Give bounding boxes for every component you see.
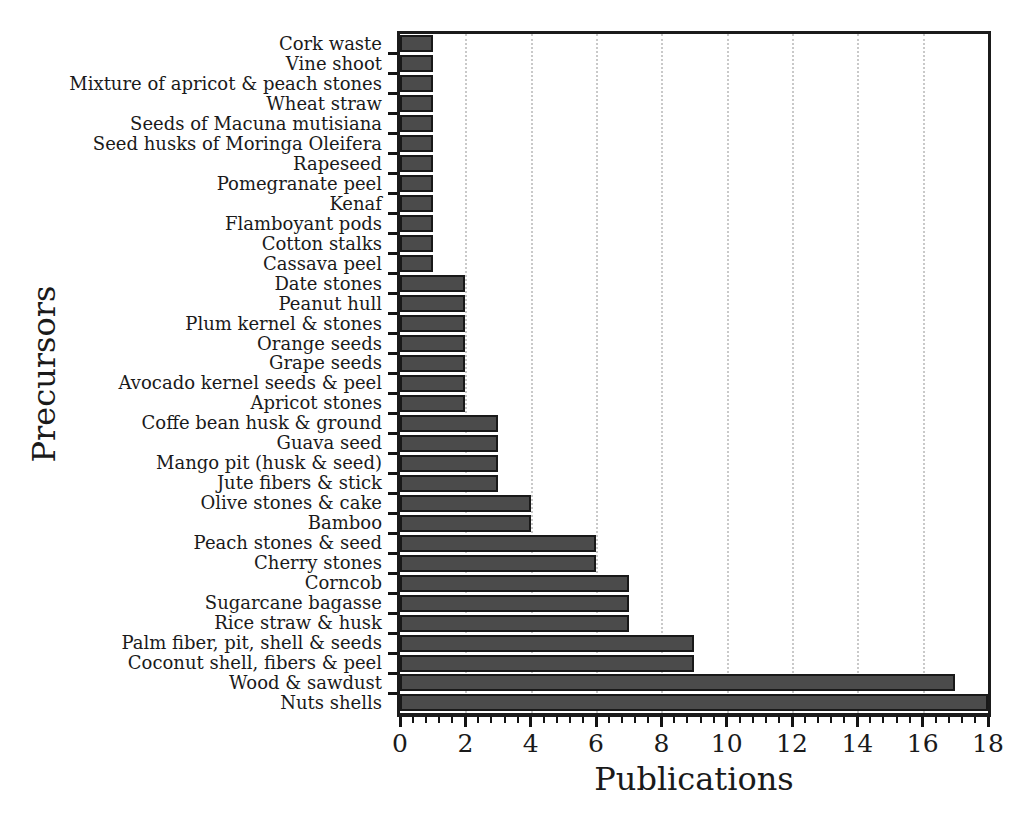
category-label: Vine shoot: [0, 54, 389, 74]
bar: [400, 215, 433, 232]
bar: [400, 335, 465, 352]
y-tick: [388, 352, 397, 355]
x-major-tick: [856, 717, 859, 727]
x-axis-title: Publications: [594, 760, 793, 798]
y-tick: [388, 212, 397, 215]
category-label: Flamboyant pods: [0, 214, 389, 234]
bar-row: [400, 553, 988, 573]
category-label: Rapeseed: [0, 154, 389, 174]
bar-row: [400, 114, 988, 134]
bar: [400, 135, 433, 152]
bar-row: [400, 533, 988, 553]
y-tick: [388, 292, 397, 295]
x-tick-label: 6: [588, 729, 604, 758]
x-minor-tick: [582, 717, 584, 723]
y-tick: [388, 272, 397, 275]
x-minor-tick: [490, 717, 492, 723]
y-tick: [388, 572, 397, 575]
x-tick-label: 18: [972, 729, 1004, 758]
bar: [400, 195, 433, 212]
bar-row: [400, 393, 988, 413]
y-tick: [388, 452, 397, 455]
bar: [400, 555, 596, 572]
category-label: Palm fiber, pit, shell & seeds: [0, 633, 389, 653]
bar: [400, 615, 629, 632]
x-tick-label: 0: [392, 729, 408, 758]
y-tick: [388, 652, 397, 655]
bar-row: [400, 174, 988, 194]
category-label: Date stones: [0, 274, 389, 294]
category-label: Mango pit (husk & seed): [0, 453, 389, 473]
bar: [400, 575, 629, 592]
category-label: Wheat straw: [0, 94, 389, 114]
category-label: Coconut shell, fibers & peel: [0, 653, 389, 673]
bar: [400, 295, 465, 312]
y-axis-ticks: [388, 34, 397, 713]
bar-row: [400, 294, 988, 314]
category-label: Seeds of Macuna mutisiana: [0, 114, 389, 134]
y-tick: [388, 412, 397, 415]
category-label: Orange seeds: [0, 334, 389, 354]
y-tick: [388, 112, 397, 115]
y-tick: [388, 132, 397, 135]
x-major-tick: [725, 717, 728, 727]
x-minor-tick: [830, 717, 832, 723]
category-label: Peach stones & seed: [0, 533, 389, 553]
y-tick: [388, 392, 397, 395]
y-tick: [388, 692, 397, 695]
y-tick: [388, 432, 397, 435]
bar: [400, 235, 433, 252]
y-tick: [388, 372, 397, 375]
y-tick: [388, 632, 397, 635]
y-tick: [388, 232, 397, 235]
category-label: Nuts shells: [0, 693, 389, 713]
bar: [400, 175, 433, 192]
category-label: Cherry stones: [0, 553, 389, 573]
x-major-tick: [464, 717, 467, 727]
bar-row: [400, 413, 988, 433]
category-label: Corncob: [0, 573, 389, 593]
x-minor-tick: [974, 717, 976, 723]
bar-row: [400, 473, 988, 493]
y-tick: [388, 612, 397, 615]
x-minor-tick: [713, 717, 715, 723]
x-minor-tick: [752, 717, 754, 723]
x-minor-tick: [438, 717, 440, 723]
bar-row: [400, 334, 988, 354]
bar-row: [400, 54, 988, 74]
bar: [400, 415, 498, 432]
y-tick: [388, 252, 397, 255]
x-major-tick: [595, 717, 598, 727]
bar: [400, 95, 433, 112]
bar: [400, 495, 531, 512]
x-minor-tick: [961, 717, 963, 723]
y-tick: [388, 532, 397, 535]
bar-row: [400, 234, 988, 254]
x-minor-tick: [517, 717, 519, 723]
bar-row: [400, 433, 988, 453]
category-label: Bamboo: [0, 513, 389, 533]
x-tick-label: 8: [653, 729, 669, 758]
x-axis-ticks: [400, 717, 988, 729]
bar-row: [400, 513, 988, 533]
y-tick: [388, 472, 397, 475]
bar-row: [400, 653, 988, 673]
y-tick: [388, 492, 397, 495]
bar-row: [400, 373, 988, 393]
bar: [400, 75, 433, 92]
bar: [400, 115, 433, 132]
x-major-tick: [791, 717, 794, 727]
category-label: Guava seed: [0, 433, 389, 453]
x-major-tick: [399, 717, 402, 727]
category-label: Apricot stones: [0, 393, 389, 413]
bar-row: [400, 314, 988, 334]
bar: [400, 455, 498, 472]
x-minor-tick: [543, 717, 545, 723]
x-minor-tick: [778, 717, 780, 723]
bar-row: [400, 693, 988, 713]
bar: [400, 694, 988, 711]
bar: [400, 515, 531, 532]
y-tick: [388, 172, 397, 175]
bar-row: [400, 134, 988, 154]
x-minor-tick: [425, 717, 427, 723]
